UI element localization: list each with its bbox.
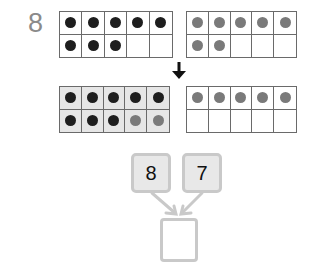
ten-frame-cell xyxy=(104,110,126,133)
ten-frame-cell xyxy=(231,87,253,110)
dark-counter-dot xyxy=(65,17,76,28)
ten-frame-cell xyxy=(82,87,104,110)
ten-frame-cell xyxy=(231,110,253,133)
ten-frame-cell xyxy=(209,35,231,58)
ten-frame-cell xyxy=(252,35,274,58)
ten-frame-cell xyxy=(82,35,104,58)
grey-counter-dot xyxy=(280,92,291,103)
dark-counter-dot xyxy=(155,17,166,28)
ten-frame-cell xyxy=(252,87,274,110)
ten-frame-cell xyxy=(125,110,147,133)
dark-counter-dot xyxy=(65,40,76,51)
ten-frame-cell xyxy=(60,35,82,58)
dark-counter-dot xyxy=(132,17,143,28)
dark-counter-dot xyxy=(110,40,121,51)
ten-frame-cell xyxy=(274,110,296,133)
grey-counter-dot xyxy=(280,17,291,28)
dark-counter-dot xyxy=(110,17,121,28)
addend-box-left: 8 xyxy=(131,153,171,193)
dark-counter-dot xyxy=(153,92,164,103)
ten-frame-cell xyxy=(231,35,253,58)
ten-frame-cell xyxy=(104,87,126,110)
ten-frame-cell xyxy=(187,12,209,35)
grey-counter-dot xyxy=(192,92,203,103)
dark-counter-dot xyxy=(108,92,119,103)
ten-frame-cell xyxy=(147,110,169,133)
dark-counter-dot xyxy=(87,115,98,126)
ten-frame-cell xyxy=(231,12,253,35)
ten-frame-cell xyxy=(125,87,147,110)
ten-frame-cell xyxy=(82,110,104,133)
ten-frame-second-addend xyxy=(186,11,297,58)
grey-counter-dot xyxy=(192,40,203,51)
ten-frame-cell xyxy=(105,12,127,35)
dark-counter-dot xyxy=(108,115,119,126)
dark-counter-dot xyxy=(65,115,76,126)
ten-frame-cell xyxy=(274,87,296,110)
ten-frame-cell xyxy=(274,35,296,58)
dark-counter-dot xyxy=(87,92,98,103)
arrow-down-icon xyxy=(171,62,187,80)
ten-frame-cell xyxy=(127,12,149,35)
grey-counter-dot xyxy=(257,17,268,28)
ten-frame-make-ten xyxy=(59,86,170,133)
ten-frame-cell xyxy=(82,12,104,35)
ten-frame-first-addend xyxy=(59,11,173,58)
ten-frame-cell xyxy=(187,110,209,133)
ten-frame-cell xyxy=(187,35,209,58)
dark-counter-dot xyxy=(88,40,99,51)
grey-counter-dot xyxy=(214,92,225,103)
dark-counter-dot xyxy=(130,92,141,103)
ten-frame-cell xyxy=(105,35,127,58)
ten-frame-cell xyxy=(127,35,149,58)
ten-frame-cell xyxy=(187,87,209,110)
ten-frame-cell xyxy=(209,110,231,133)
problem-number: 8 xyxy=(28,10,43,37)
grey-counter-dot xyxy=(235,17,246,28)
ten-frame-cell xyxy=(60,12,82,35)
ten-frame-remainder xyxy=(186,86,297,133)
ten-frame-cell xyxy=(150,35,172,58)
ten-frame-cell xyxy=(209,12,231,35)
ten-frame-cell xyxy=(209,87,231,110)
ten-frame-cell xyxy=(147,87,169,110)
dark-counter-dot xyxy=(65,92,76,103)
answer-box[interactable] xyxy=(160,218,198,262)
dark-counter-dot xyxy=(88,17,99,28)
grey-counter-dot xyxy=(130,115,141,126)
grey-counter-dot xyxy=(192,17,203,28)
grey-counter-dot xyxy=(153,115,164,126)
grey-counter-dot xyxy=(235,92,246,103)
grey-counter-dot xyxy=(214,40,225,51)
addend-box-right: 7 xyxy=(182,153,222,193)
ten-frame-cell xyxy=(60,87,82,110)
ten-frame-cell xyxy=(150,12,172,35)
ten-frame-cell xyxy=(252,12,274,35)
ten-frame-cell xyxy=(252,110,274,133)
ten-frame-cell xyxy=(60,110,82,133)
grey-counter-dot xyxy=(214,17,225,28)
ten-frame-cell xyxy=(274,12,296,35)
grey-counter-dot xyxy=(257,92,268,103)
